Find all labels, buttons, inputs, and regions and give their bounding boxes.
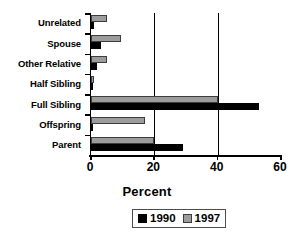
bar-1990-other-relative	[91, 63, 97, 70]
bar-group	[91, 135, 281, 155]
bar-1997-other-relative	[91, 56, 107, 63]
bar-group	[91, 54, 281, 74]
legend-swatch-1997	[183, 214, 192, 223]
plot-area	[90, 13, 281, 155]
value-tick-label-40: 40	[210, 161, 223, 173]
category-tick	[85, 13, 90, 15]
bar-1997-unrelated	[91, 15, 107, 22]
bar-1990-unrelated	[91, 22, 94, 29]
bar-1990-half-sibling	[91, 83, 93, 90]
category-tick	[85, 135, 90, 137]
bar-1997-offspring	[91, 117, 145, 124]
category-axis-labels: Unrelated Spouse Other Relative Half Sib…	[0, 13, 86, 155]
value-tick-label-20: 20	[147, 161, 160, 173]
bar-1997-full-sibling	[91, 96, 218, 103]
category-label-unrelated: Unrelated	[0, 13, 86, 33]
category-label-spouse: Spouse	[0, 33, 86, 53]
legend-entry-1990: 1990	[138, 213, 176, 225]
legend-label-1990: 1990	[150, 213, 176, 225]
category-label-parent: Parent	[0, 135, 86, 155]
value-axis-labels: 0204060	[0, 161, 294, 177]
category-tick	[85, 74, 90, 76]
category-tick	[85, 33, 90, 35]
bar-group	[91, 33, 281, 53]
bar-1990-offspring	[91, 124, 93, 131]
category-label-other-relative: Other Relative	[0, 54, 86, 74]
plot-inner	[91, 13, 281, 155]
legend-label-1997: 1997	[195, 213, 221, 225]
bar-1990-full-sibling	[91, 103, 259, 110]
bar-chart: Unrelated Spouse Other Relative Half Sib…	[0, 0, 294, 234]
legend-swatch-1990	[138, 214, 147, 223]
bar-1997-spouse	[91, 35, 121, 42]
bar-1997-parent	[91, 137, 154, 144]
category-label-full-sibling: Full Sibling	[0, 94, 86, 114]
category-tick	[85, 94, 90, 96]
bar-group	[91, 74, 281, 94]
category-label-half-sibling: Half Sibling	[0, 74, 86, 94]
legend: 1990 1997	[132, 209, 226, 228]
bar-1997-half-sibling	[91, 76, 94, 83]
category-tick	[85, 54, 90, 56]
bar-group	[91, 13, 281, 33]
x-axis-title: Percent	[0, 184, 294, 199]
bar-1990-spouse	[91, 42, 101, 49]
category-tick	[85, 114, 90, 116]
value-tick-label-60: 60	[273, 161, 286, 173]
legend-entry-1997: 1997	[183, 213, 221, 225]
value-tick-label-0: 0	[87, 161, 94, 173]
value-axis-line	[89, 155, 281, 157]
category-label-offspring: Offspring	[0, 114, 86, 134]
bar-group	[91, 114, 281, 134]
bar-group	[91, 94, 281, 114]
bar-1990-parent	[91, 144, 183, 151]
